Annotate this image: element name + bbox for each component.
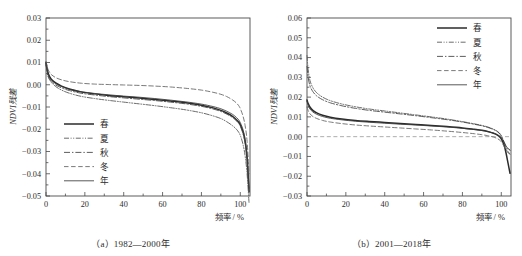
x-tick-label: 0 bbox=[305, 200, 309, 209]
series-line-4 bbox=[46, 63, 249, 188]
y-tick-label: 0.03 bbox=[288, 73, 302, 82]
y-tick-label: 0.01 bbox=[288, 113, 302, 122]
x-axis-title: 频率 / % bbox=[215, 212, 245, 222]
legend-label-2: 秋 bbox=[473, 51, 482, 62]
y-tick-label: 0.02 bbox=[27, 36, 41, 45]
legend: 春夏秋冬年 bbox=[437, 22, 482, 90]
legend-label-1: 夏 bbox=[100, 134, 109, 144]
x-tick-label: 100 bbox=[495, 200, 507, 209]
y-tick-label: −0.04 bbox=[22, 170, 41, 179]
y-tick-label: −0.01 bbox=[283, 152, 302, 161]
y-tick-label: −0.03 bbox=[22, 147, 41, 156]
chart-a-svg: 0.030.020.010.00−0.01−0.02−0.03−0.04−0.0… bbox=[0, 0, 261, 256]
x-tick-label: 80 bbox=[458, 200, 466, 209]
y-tick-label: 0.06 bbox=[288, 14, 302, 23]
y-tick-label: −0.05 bbox=[22, 192, 41, 201]
series-line-1 bbox=[46, 64, 249, 202]
y-tick-label: 0.02 bbox=[288, 93, 302, 102]
legend-label-1: 夏 bbox=[473, 38, 482, 48]
x-tick-label: 20 bbox=[81, 200, 89, 209]
legend-label-2: 秋 bbox=[100, 147, 109, 158]
x-axis-title: 频率 / % bbox=[476, 212, 506, 222]
legend-label-3: 冬 bbox=[473, 65, 482, 76]
legend-label-4: 年 bbox=[473, 79, 482, 90]
chart-b-caption: （b）2001—2018年 bbox=[261, 237, 522, 250]
series-line-0 bbox=[46, 63, 249, 192]
figure-container: 0.030.020.010.00−0.01−0.02−0.03−0.04−0.0… bbox=[0, 0, 522, 256]
y-axis-title: NDVI残差 bbox=[8, 87, 18, 126]
y-tick-label: 0.03 bbox=[27, 14, 41, 23]
x-tick-label: 40 bbox=[120, 200, 128, 209]
y-tick-label: 0.01 bbox=[27, 58, 41, 67]
x-tick-label: 80 bbox=[197, 200, 205, 209]
x-tick-label: 60 bbox=[419, 200, 427, 209]
chart-panel-b: 0.060.050.040.030.020.010.00−0.01−0.02−0… bbox=[261, 0, 522, 256]
y-tick-label: −0.02 bbox=[22, 125, 41, 134]
x-tick-label: 20 bbox=[342, 200, 350, 209]
chart-b-svg: 0.060.050.040.030.020.010.00−0.01−0.02−0… bbox=[261, 0, 522, 256]
chart-a-caption: （a）1982—2000年 bbox=[0, 237, 261, 250]
legend: 春夏秋冬年 bbox=[64, 118, 109, 186]
legend-label-4: 年 bbox=[100, 175, 109, 186]
y-tick-label: 0.04 bbox=[288, 53, 302, 62]
x-tick-label: 0 bbox=[44, 200, 48, 209]
y-axis-title: NDVI残差 bbox=[269, 87, 279, 126]
y-tick-label: −0.02 bbox=[283, 172, 302, 181]
y-tick-label: 0.00 bbox=[27, 81, 41, 90]
x-tick-label: 40 bbox=[381, 200, 389, 209]
series-line-2 bbox=[46, 65, 249, 194]
legend-label-3: 冬 bbox=[100, 161, 109, 172]
y-tick-label: 0.05 bbox=[288, 34, 302, 43]
y-tick-label: 0.00 bbox=[288, 133, 302, 142]
y-tick-label: −0.03 bbox=[283, 192, 302, 201]
series-line-4 bbox=[307, 101, 510, 150]
chart-panel-a: 0.030.020.010.00−0.01−0.02−0.03−0.04−0.0… bbox=[0, 0, 261, 256]
legend-label-0: 春 bbox=[100, 118, 109, 129]
plot-frame bbox=[46, 18, 250, 196]
y-tick-label: −0.01 bbox=[22, 103, 41, 112]
legend-label-0: 春 bbox=[473, 22, 482, 33]
x-tick-label: 60 bbox=[158, 200, 166, 209]
x-tick-label: 100 bbox=[234, 200, 246, 209]
